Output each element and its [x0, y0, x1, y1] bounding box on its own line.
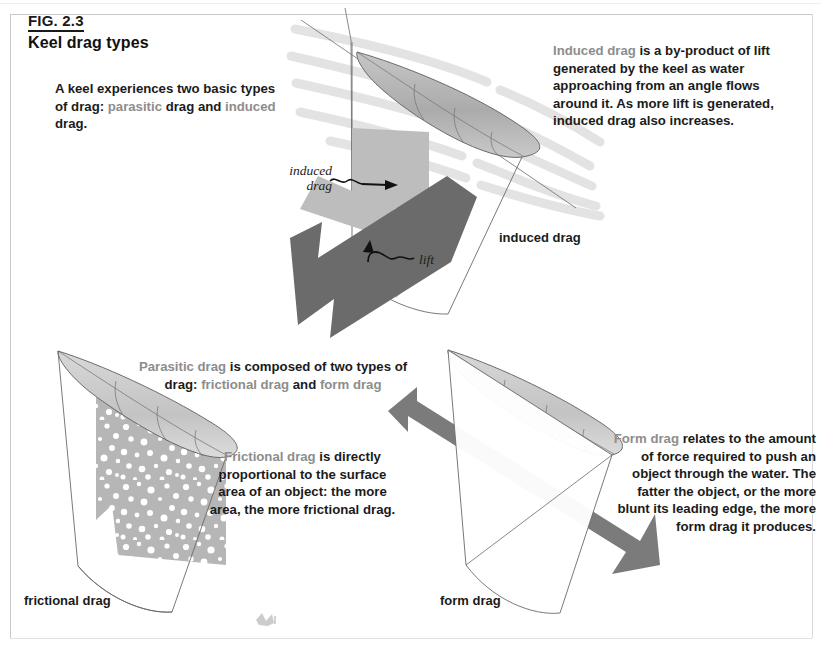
form-drag-paragraph: Form drag relates to the amount of force… [608, 430, 816, 536]
page-title: Keel drag types [28, 33, 149, 52]
frictional-drag-paragraph: Frictional drag is directly proportional… [205, 448, 400, 518]
parasitic-seg-4: form drag [320, 377, 382, 392]
intro-seg-4: drag. [55, 116, 87, 131]
label-form-drag: form drag [440, 593, 501, 608]
figure-page: FIG. 2.3 Keel drag types A keel experien… [0, 0, 821, 653]
label-induced-drag: induced drag [499, 230, 581, 245]
form-seg-0: Form drag [614, 431, 679, 446]
annotation-induced-drag-line2: drag [274, 178, 332, 193]
annotation-induced-drag-line1: induced [274, 163, 332, 178]
frictional-seg-0: Frictional drag [224, 449, 316, 464]
scan-smudge-artifact [256, 613, 276, 626]
form-seg-1: relates to the amount of force required … [617, 431, 816, 534]
induced-seg-0: Induced drag [553, 43, 636, 58]
induced-drag-paragraph: Induced drag is a by-product of lift gen… [553, 42, 807, 130]
label-frictional-drag: frictional drag [24, 593, 111, 608]
parasitic-seg-2: frictional drag [201, 377, 289, 392]
intro-paragraph: A keel experiences two basic types of dr… [55, 80, 285, 133]
intro-seg-3: induced [225, 99, 276, 114]
intro-seg-2: drag and [162, 99, 225, 114]
annotation-induced-drag: induced drag [274, 163, 332, 193]
annotation-lift: lift [419, 252, 434, 267]
parasitic-drag-paragraph: Parasitic drag is composed of two types … [128, 358, 418, 393]
figure-number: FIG. 2.3 [28, 12, 84, 32]
parasitic-seg-3: and [289, 377, 320, 392]
parasitic-seg-0: Parasitic drag [139, 359, 226, 374]
intro-seg-1: parasitic [108, 99, 162, 114]
